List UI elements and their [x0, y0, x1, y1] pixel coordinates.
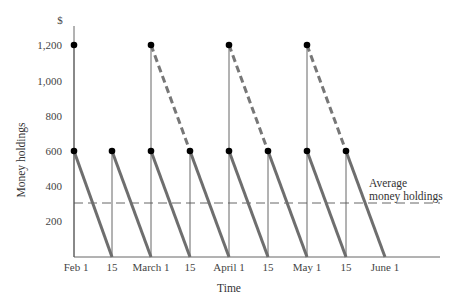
y-tick-1000: 1,000: [37, 75, 62, 87]
sawtooth-declines: [74, 151, 385, 257]
average-label-line2: money holdings: [369, 190, 443, 203]
y-unit-label: $: [57, 14, 63, 26]
x-tick-apr1: April 1: [213, 261, 244, 273]
x-tick-feb1: Feb 1: [64, 261, 89, 273]
x-tick-apr15: 15: [263, 261, 275, 273]
x-tick-feb15: 15: [107, 261, 119, 273]
money-holdings-chart: $ 1,200 1,000 800 600 400 200 Money hold…: [0, 0, 453, 304]
y-tick-1200: 1,200: [37, 39, 62, 51]
y-tick-400: 400: [46, 180, 63, 192]
data-markers: [71, 42, 350, 155]
y-tick-600: 600: [46, 145, 63, 157]
y-axis-label: Money holdings: [15, 122, 28, 198]
average-label-line1: Average: [369, 177, 407, 190]
x-tick-may15: 15: [341, 261, 353, 273]
x-tick-may1: May 1: [293, 261, 321, 273]
monthly-decline-dashed: [151, 45, 346, 151]
x-axis-label: Time: [217, 282, 241, 294]
y-tick-200: 200: [46, 215, 63, 227]
y-tick-800: 800: [46, 110, 63, 122]
x-tick-mar1: March 1: [133, 261, 170, 273]
x-tick-jun1: June 1: [371, 261, 399, 273]
x-tick-mar15: 15: [185, 261, 197, 273]
